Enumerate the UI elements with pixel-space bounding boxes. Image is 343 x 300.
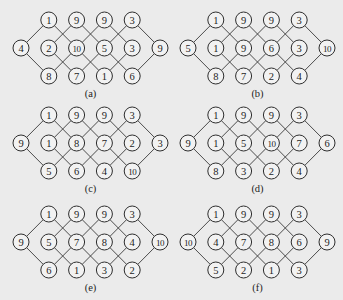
- node-middle-5: 10: [152, 234, 168, 250]
- node-value: 10: [128, 167, 137, 177]
- node-top-3: 3: [291, 12, 307, 28]
- node-value: 8: [46, 71, 51, 82]
- node-value: 4: [297, 71, 303, 82]
- node-value: 9: [18, 237, 23, 248]
- node-value: 3: [297, 209, 302, 220]
- node-value: 10: [267, 139, 276, 149]
- node-bottom-2: 3: [96, 262, 112, 278]
- panel-label: (f): [252, 282, 263, 294]
- node-value: 4: [297, 166, 303, 177]
- node-value: 3: [130, 43, 135, 54]
- node-value: 8: [102, 237, 107, 248]
- node-middle-2: 9: [236, 40, 252, 56]
- node-top-3: 3: [291, 206, 307, 222]
- node-bottom-0: 5: [41, 163, 57, 179]
- node-top-1: 9: [236, 12, 252, 28]
- node-value: 9: [269, 110, 274, 121]
- node-value: 3: [297, 265, 302, 276]
- node-top-1: 9: [69, 206, 85, 222]
- node-bottom-1: 3: [236, 163, 252, 179]
- panel-label: (b): [251, 88, 264, 100]
- node-bottom-2: 2: [263, 68, 279, 84]
- node-value: 3: [297, 110, 302, 121]
- node-value: 7: [241, 71, 246, 82]
- node-bottom-1: 1: [69, 262, 85, 278]
- node-value: 2: [46, 43, 51, 54]
- node-value: 9: [241, 15, 246, 26]
- node-middle-4: 3: [124, 40, 140, 56]
- node-value: 3: [130, 209, 135, 220]
- node-value: 9: [74, 15, 79, 26]
- node-bottom-3: 4: [291, 163, 307, 179]
- node-bottom-3: 3: [291, 262, 307, 278]
- node-middle-1: 1: [208, 40, 224, 56]
- node-bottom-3: 4: [291, 68, 307, 84]
- node-value: 6: [297, 237, 302, 248]
- node-value: 1: [269, 265, 274, 276]
- node-middle-4: 6: [291, 234, 307, 250]
- node-value: 9: [74, 209, 79, 220]
- node-middle-4: 3: [291, 40, 307, 56]
- node-value: 1: [213, 15, 218, 26]
- node-value: 1: [213, 209, 218, 220]
- node-value: 2: [130, 138, 135, 149]
- node-middle-3: 8: [263, 234, 279, 250]
- node-bottom-0: 5: [208, 262, 224, 278]
- node-bottom-0: 8: [208, 163, 224, 179]
- node-middle-0: 4: [13, 40, 29, 56]
- node-value: 6: [46, 265, 51, 276]
- node-middle-5: 6: [319, 135, 335, 151]
- node-middle-2: 8: [69, 135, 85, 151]
- node-value: 2: [241, 265, 246, 276]
- node-bottom-3: 6: [124, 68, 140, 84]
- panel-d: 199391510768324(d): [180, 107, 335, 195]
- node-value: 7: [297, 138, 302, 149]
- node-value: 5: [102, 43, 107, 54]
- node-bottom-1: 7: [69, 68, 85, 84]
- node-value: 5: [46, 237, 51, 248]
- node-middle-3: 7: [96, 135, 112, 151]
- node-value: 1: [102, 71, 107, 82]
- node-middle-0: 9: [13, 135, 29, 151]
- node-bottom-3: 10: [124, 163, 140, 179]
- node-value: 5: [185, 43, 190, 54]
- node-value: 3: [102, 265, 107, 276]
- node-top-3: 3: [124, 107, 140, 123]
- node-value: 1: [74, 265, 79, 276]
- node-middle-3: 6: [263, 40, 279, 56]
- node-value: 1: [213, 138, 218, 149]
- node-middle-3: 10: [263, 135, 279, 151]
- node-middle-5: 3: [152, 135, 168, 151]
- node-value: 3: [297, 43, 302, 54]
- node-value: 8: [213, 166, 218, 177]
- node-value: 3: [130, 110, 135, 121]
- node-top-2: 9: [96, 12, 112, 28]
- node-value: 4: [213, 237, 219, 248]
- node-value: 1: [213, 43, 218, 54]
- node-value: 10: [184, 238, 193, 248]
- node-middle-3: 8: [96, 234, 112, 250]
- node-top-2: 9: [263, 12, 279, 28]
- node-value: 9: [102, 209, 107, 220]
- node-top-0: 1: [41, 206, 57, 222]
- node-value: 5: [241, 138, 246, 149]
- node-middle-5: 9: [152, 40, 168, 56]
- node-value: 3: [297, 15, 302, 26]
- node-value: 1: [46, 110, 51, 121]
- node-value: 10: [156, 238, 165, 248]
- node-value: 10: [73, 44, 82, 54]
- node-middle-2: 7: [69, 234, 85, 250]
- node-bottom-0: 8: [208, 68, 224, 84]
- node-value: 9: [102, 110, 107, 121]
- node-value: 8: [74, 138, 79, 149]
- node-value: 10: [323, 44, 332, 54]
- node-top-1: 9: [236, 107, 252, 123]
- node-middle-5: 10: [319, 40, 335, 56]
- node-middle-1: 4: [208, 234, 224, 250]
- node-value: 3: [241, 166, 246, 177]
- node-value: 4: [130, 237, 136, 248]
- node-bottom-3: 2: [124, 262, 140, 278]
- figure-canvas: 199342105398716(a)199351963108724(b)1993…: [0, 0, 343, 300]
- node-middle-2: 5: [236, 135, 252, 151]
- panel-label: (e): [85, 282, 97, 294]
